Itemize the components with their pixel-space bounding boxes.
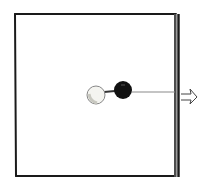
arrow-right-icon: [181, 89, 197, 104]
white-ball: [87, 86, 105, 104]
diagram-canvas: [0, 0, 207, 188]
right-wall: [174, 14, 180, 177]
connecting-rod: [104, 91, 115, 92]
black-ball: [114, 81, 132, 99]
